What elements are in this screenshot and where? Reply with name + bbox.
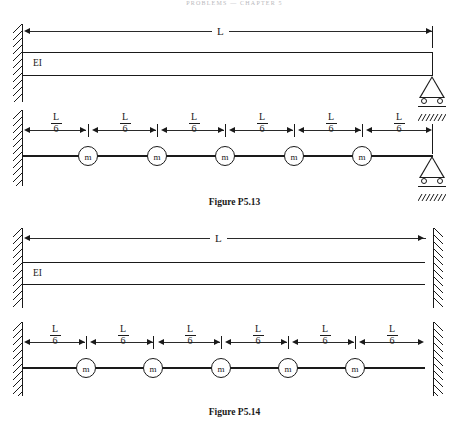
fraction-numerator: L	[247, 324, 269, 334]
fraction-denominator: 6	[45, 124, 67, 135]
lumped-mass-3: m	[215, 146, 235, 166]
wall-post	[22, 24, 23, 102]
figure-p513-mass-model: L 6 L 6 L 6 L 6 L 6	[0, 108, 469, 196]
wall-hatching	[13, 228, 22, 308]
segment-tick-3	[221, 336, 222, 349]
roller-wheel-right	[437, 98, 443, 104]
support-triangle-inner	[421, 158, 443, 177]
segment-tick-6	[432, 124, 433, 154]
figure-p514-mass-model: L 6 L 6 L 6 L 6 L 6	[0, 320, 469, 404]
segment-arrow-2-left	[90, 339, 96, 345]
support-triangle-inner	[421, 78, 443, 97]
segment-arrow-3-right	[214, 339, 220, 345]
lumped-mass-1: m	[78, 146, 98, 166]
wall-hatching	[434, 322, 443, 396]
segment-arrow-6-left	[366, 127, 372, 133]
lumped-mass-2: m	[147, 146, 167, 166]
beam-bottom-edge	[23, 284, 425, 285]
segment-tick-2	[157, 124, 158, 137]
segment-tick-3	[225, 124, 226, 137]
fraction-denominator: 6	[44, 336, 66, 347]
dimension-extension-tick	[432, 26, 433, 48]
segment-arrow-4-left	[229, 127, 235, 133]
segment-label-4: L 6	[247, 324, 269, 347]
span-label-L: L	[210, 233, 227, 243]
lumped-mass-1: m	[76, 358, 96, 378]
segment-label-1: L 6	[45, 112, 67, 135]
roller-wheel-left	[421, 98, 427, 104]
dimension-line	[28, 238, 426, 239]
dimension-line	[28, 31, 432, 32]
segment-arrow-4-right	[287, 127, 293, 133]
dimension-arrow-left	[24, 28, 30, 34]
textbook-figure-page: PROBLEMS — CHAPTER 5	[0, 0, 469, 430]
segment-label-3: L 6	[179, 324, 201, 347]
segment-tick-4	[294, 124, 295, 137]
lumped-mass-4: m	[284, 146, 304, 166]
stiffness-label-EI: EI	[33, 58, 42, 68]
segment-label-6: L 6	[388, 112, 410, 135]
segment-arrow-5-right	[355, 127, 361, 133]
fraction-denominator: 6	[314, 336, 336, 347]
segment-arrow-5-right	[348, 339, 354, 345]
dimension-arrow-right	[418, 235, 424, 241]
wall-hatching	[13, 110, 22, 186]
segment-arrow-4-left	[225, 339, 231, 345]
lumped-mass-5: m	[345, 358, 365, 378]
fraction-numerator: L	[388, 112, 410, 122]
fraction-numerator: L	[114, 112, 136, 122]
fraction-numerator: L	[314, 324, 336, 334]
segment-tick-1	[88, 124, 89, 137]
segment-arrow-6-right	[418, 339, 424, 345]
figure-p513-beam-diagram: L EI	[0, 22, 469, 106]
wall-hatching	[13, 24, 22, 102]
fraction-denominator: 6	[179, 336, 201, 347]
fraction-numerator: L	[251, 112, 273, 122]
fraction-denominator: 6	[381, 336, 403, 347]
segment-arrow-5-left	[298, 127, 304, 133]
segment-tick-4	[288, 336, 289, 349]
segment-arrow-4-right	[281, 339, 287, 345]
fraction-denominator: 6	[388, 124, 410, 135]
ground-hatching	[418, 187, 446, 194]
segment-arrow-3-right	[218, 127, 224, 133]
fraction-numerator: L	[179, 324, 201, 334]
segment-tick-5	[355, 336, 356, 349]
fraction-numerator: L	[320, 112, 342, 122]
segment-arrow-3-left	[158, 339, 164, 345]
segment-label-3: L 6	[183, 112, 205, 135]
fraction-denominator: 6	[112, 336, 134, 347]
lumped-mass-4: m	[278, 358, 298, 378]
fraction-numerator: L	[112, 324, 134, 334]
dimension-arrow-left	[24, 235, 30, 241]
segment-label-1: L 6	[44, 324, 66, 347]
segment-label-2: L 6	[114, 112, 136, 135]
segment-tick-1	[86, 336, 87, 349]
figure-p514-beam-diagram: L EI	[0, 226, 469, 312]
fraction-numerator: L	[381, 324, 403, 334]
beam-bottom-edge	[23, 75, 433, 76]
fraction-numerator: L	[183, 112, 205, 122]
segment-label-2: L 6	[112, 324, 134, 347]
lumped-mass-3: m	[211, 358, 231, 378]
segment-arrow-2-left	[92, 127, 98, 133]
segment-arrow-5-left	[292, 339, 298, 345]
fraction-numerator: L	[45, 112, 67, 122]
beam-right-end	[432, 52, 433, 76]
wall-hatching	[13, 322, 22, 396]
stiffness-label-EI: EI	[33, 268, 42, 278]
segment-label-5: L 6	[320, 112, 342, 135]
wall-hatching	[434, 228, 443, 308]
segment-arrow-3-left	[161, 127, 167, 133]
segment-label-6: L 6	[381, 324, 403, 347]
caption-p513: Figure P5.13	[0, 197, 469, 207]
segment-arrow-6-left	[359, 339, 365, 345]
span-label-L: L	[212, 26, 229, 36]
fraction-denominator: 6	[247, 336, 269, 347]
fraction-denominator: 6	[114, 124, 136, 135]
segment-label-5: L 6	[314, 324, 336, 347]
roller-wheel-right	[437, 178, 443, 184]
wall-post	[22, 110, 23, 186]
lumped-mass-2: m	[143, 358, 163, 378]
fraction-numerator: L	[44, 324, 66, 334]
